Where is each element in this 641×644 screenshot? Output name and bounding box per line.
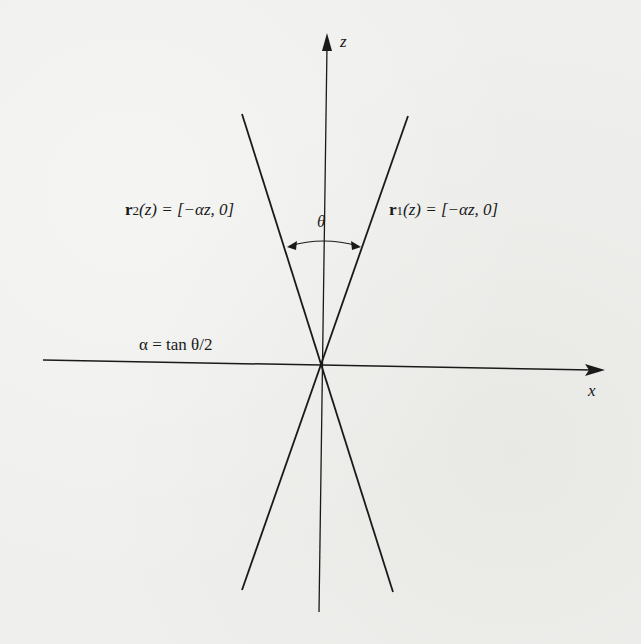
r2-formula: (z) = [−αz, 0] [139, 200, 234, 219]
z-axis-arrowhead [322, 33, 332, 51]
cone-diagram [0, 0, 641, 644]
z-axis [319, 46, 327, 612]
theta-arrow-right [351, 241, 361, 250]
theta-label: θ [317, 213, 325, 230]
z-axis-label: z [340, 33, 347, 50]
x-axis [43, 360, 592, 370]
x-axis-label: x [588, 382, 596, 399]
line-r2 [242, 114, 393, 592]
r2-equation: r2(z) = [−αz, 0] [125, 201, 234, 218]
theta-arrow-left [287, 241, 297, 250]
alpha-definition: α = tan θ/2 [139, 336, 212, 353]
r1-equation: r1(z) = [−αz, 0] [389, 201, 498, 218]
r1-symbol: r [389, 200, 397, 219]
r1-formula: (z) = [−αz, 0] [403, 200, 498, 219]
r2-symbol: r [125, 200, 133, 219]
